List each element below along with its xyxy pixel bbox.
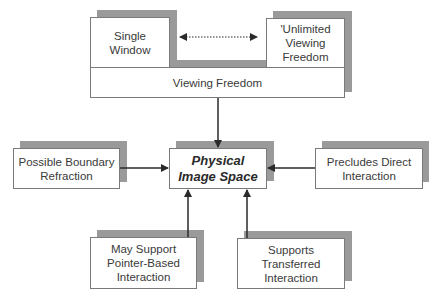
arrows-layer xyxy=(0,0,439,296)
